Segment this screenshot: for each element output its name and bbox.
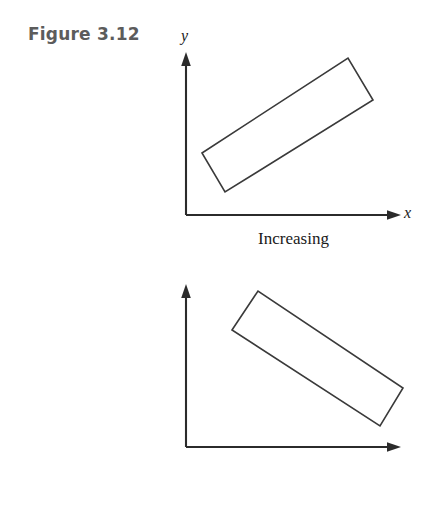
y-axis-arrowhead-increasing: [181, 52, 191, 66]
panel-decreasing: y x Decreasing: [0, 252, 448, 514]
data-envelope-rectangle-decreasing: [232, 291, 403, 426]
y-axis-arrowhead-decreasing: [181, 284, 191, 298]
panel-increasing: y x Increasing: [0, 0, 448, 262]
y-axis-label-increasing: y: [181, 28, 188, 44]
plot-increasing: [0, 0, 448, 262]
x-axis-label-increasing: x: [404, 205, 411, 221]
data-envelope-rectangle-increasing: [202, 58, 373, 192]
caption-increasing: Increasing: [186, 229, 401, 249]
x-axis-arrowhead-increasing: [387, 210, 401, 220]
plot-decreasing: [0, 252, 448, 514]
figure-container: Figure 3.12 y x Increasing y: [0, 0, 448, 514]
x-axis-arrowhead-decreasing: [387, 442, 401, 452]
